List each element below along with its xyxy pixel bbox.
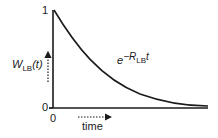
curve-exponent-prefix: −R [123,51,136,62]
x-tick-label-0: 0 [50,113,56,124]
curve-annotation: e−RLBt [117,55,149,66]
y-axis-label: WLB(t) [12,59,43,70]
y-label-suffix: (t) [32,58,42,70]
y-tick-label-0: 0 [42,102,48,113]
y-label-sub: LB [22,64,32,73]
y-tick-label-1: 1 [42,5,48,16]
x-axis-label: time [82,121,103,132]
y-label-main: W [12,58,22,70]
curve-exponent-sub: LB [136,56,146,65]
curve-exponent-suffix: t [146,51,149,62]
